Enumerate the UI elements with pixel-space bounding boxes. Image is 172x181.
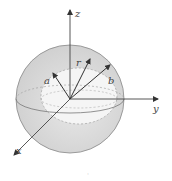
spherical-shell-diagram: z y x a r b · [0, 0, 172, 181]
x-axis-label: x [16, 145, 22, 156]
footer-mark: · [87, 170, 89, 177]
vector-b-label: b [108, 75, 114, 86]
inner-sphere [41, 68, 117, 124]
z-axis-label: z [74, 8, 81, 19]
y-axis-label: y [152, 103, 159, 114]
vector-a-label: a [44, 75, 50, 86]
